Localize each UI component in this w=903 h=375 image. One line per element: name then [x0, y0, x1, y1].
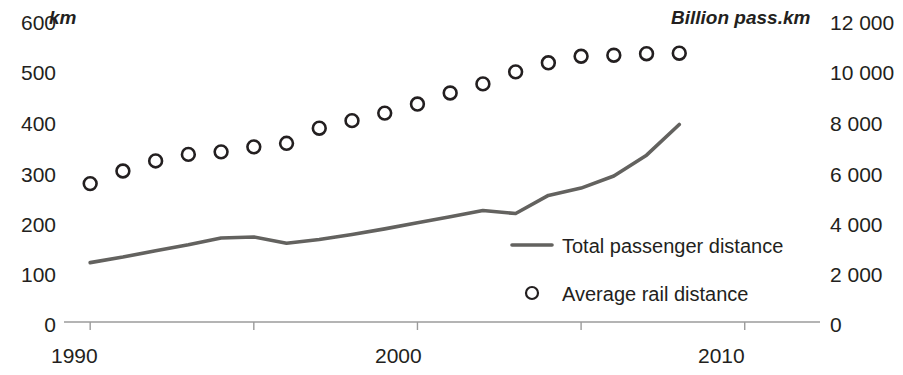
data-point-marker — [346, 114, 359, 127]
legend — [512, 245, 552, 299]
data-point-marker — [280, 137, 293, 150]
chart-figure: km Billion pass.km 600 500 400 300 200 1… — [0, 0, 903, 375]
data-point-marker — [673, 47, 686, 60]
data-point-marker — [444, 87, 457, 100]
series-line-total-passenger-distance — [90, 124, 679, 262]
plot-area — [0, 0, 903, 375]
data-point-marker — [607, 49, 620, 62]
data-point-marker — [84, 177, 97, 190]
x-axis — [64, 322, 820, 330]
data-point-marker — [149, 155, 162, 168]
data-point-marker — [509, 65, 522, 78]
series-markers-average-rail-distance — [84, 47, 686, 190]
data-point-marker — [575, 50, 588, 63]
data-point-marker — [215, 145, 228, 158]
data-point-marker — [378, 107, 391, 120]
x-axis-ticks — [90, 322, 745, 330]
data-point-marker — [182, 148, 195, 161]
data-point-marker — [247, 140, 260, 153]
data-point-marker — [313, 122, 326, 135]
data-point-marker — [411, 98, 424, 111]
data-point-marker — [542, 56, 555, 69]
data-point-marker — [477, 78, 490, 91]
data-point-marker — [640, 47, 653, 60]
legend-swatch-circle-icon — [526, 287, 538, 299]
data-point-marker — [117, 165, 130, 178]
